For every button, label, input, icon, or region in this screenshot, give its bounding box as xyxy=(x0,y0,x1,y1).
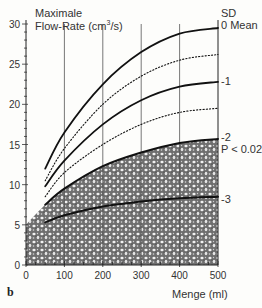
x-tick-label: 300 xyxy=(133,270,150,281)
y-tick-label: 5 xyxy=(14,220,20,231)
legend-mean-label: 0 Mean xyxy=(221,19,258,31)
x-tick-label: 400 xyxy=(171,270,188,281)
y-tick-label: 0 xyxy=(14,260,20,271)
legend-p-label: P < 0.025 xyxy=(221,143,262,155)
legend-sd-header: SD xyxy=(221,7,236,19)
x-axis-label: Menge (ml) xyxy=(172,288,228,300)
legend-minus1-label: -1 xyxy=(221,75,231,87)
legend-minus2-label: -2 xyxy=(221,131,231,143)
panel-label: b xyxy=(7,285,14,300)
y-axis-label-line1: Maximale xyxy=(35,7,82,19)
y-tick-label: 25 xyxy=(9,59,21,70)
y-axis-label-line2: Flow-Rate (cm3/s) xyxy=(35,19,123,32)
x-tick-label: 200 xyxy=(94,270,111,281)
y-tick-label: 30 xyxy=(9,19,21,30)
legend-minus3-label: -3 xyxy=(221,193,231,205)
y-tick-label: 15 xyxy=(9,140,21,151)
x-tick-label: 0 xyxy=(23,270,29,281)
y-tick-label: 10 xyxy=(9,180,21,191)
x-tick-label: 100 xyxy=(56,270,73,281)
x-tick-label: 500 xyxy=(210,270,227,281)
y-axis-label-text: Flow-Rate (cm xyxy=(35,20,107,32)
y-axis-label-end: /s) xyxy=(110,20,122,32)
y-tick-label: 20 xyxy=(9,99,21,110)
